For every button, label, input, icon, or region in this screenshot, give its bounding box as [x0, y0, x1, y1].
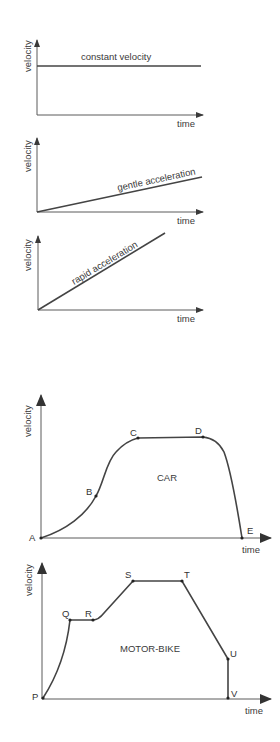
y-axis-label: velocity [23, 564, 34, 596]
graph-constant-velocity: constant velocity time velocity [22, 40, 203, 129]
point-c [136, 436, 139, 439]
point-label-t: T [184, 569, 190, 580]
line-label: rapid acceleration [69, 239, 139, 287]
x-axis-label: time [177, 215, 195, 226]
graph-car: A B C D E CAR time velocity [22, 395, 271, 555]
point-s [131, 579, 134, 582]
y-axis-label: velocity [22, 40, 33, 72]
graph-motorbike: P Q R S T U V MOTOR-BIKE time velocity [23, 563, 271, 716]
point-a [39, 536, 42, 539]
point-b [94, 494, 97, 497]
motorbike-velocity-curve [43, 581, 228, 698]
point-p [41, 696, 44, 699]
point-label-v: V [231, 688, 238, 699]
point-label-s: S [125, 569, 131, 580]
rapid-acceleration-line [38, 233, 165, 310]
point-label-a: A [29, 532, 36, 543]
y-axis-label: velocity [22, 405, 33, 437]
car-velocity-curve [41, 437, 242, 538]
y-axis-label: velocity [22, 239, 33, 271]
graph-rapid-acceleration: rapid acceleration time velocity [22, 233, 203, 324]
graph-gentle-acceleration: gentle acceleration time velocity [22, 138, 203, 226]
point-label-p: P [32, 691, 38, 702]
point-label-q: Q [62, 608, 69, 619]
motorbike-title: MOTOR-BIKE [120, 643, 180, 654]
point-r [91, 618, 94, 621]
y-axis-label: velocity [22, 140, 33, 172]
point-v [226, 696, 229, 699]
point-label-d: D [195, 425, 202, 436]
x-axis-label: time [245, 705, 263, 716]
x-axis-label: time [177, 313, 195, 324]
velocity-time-diagrams: constant velocity time velocity gentle a… [0, 0, 280, 742]
line-label: constant velocity [81, 51, 151, 62]
line-label: gentle acceleration [116, 166, 196, 193]
car-title: CAR [157, 472, 177, 483]
point-label-b: B [86, 486, 92, 497]
point-label-c: C [130, 427, 137, 438]
point-label-r: R [85, 608, 92, 619]
point-label-e: E [247, 525, 253, 536]
point-e [240, 536, 243, 539]
point-d [201, 435, 204, 438]
point-label-u: U [230, 648, 237, 659]
x-axis-label: time [242, 544, 260, 555]
x-axis-label: time [177, 118, 195, 129]
